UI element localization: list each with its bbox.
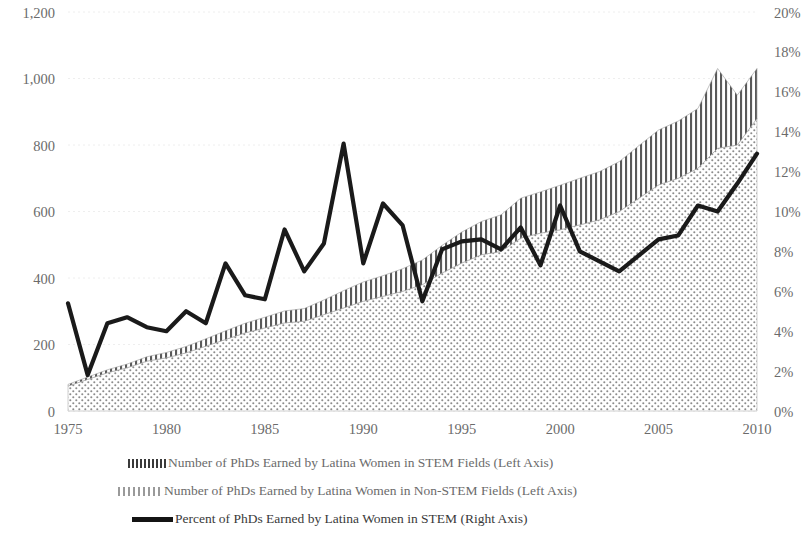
- y-axis-left-tick-label: 200: [33, 337, 55, 353]
- y-axis-left-tick-label: 400: [33, 271, 55, 287]
- y-axis-right-tick-label: 18%: [774, 44, 801, 60]
- dot-swatch-icon: [118, 487, 162, 496]
- x-axis-tick-label: 2000: [546, 421, 575, 437]
- y-axis-left-tick-label: 0: [48, 404, 55, 420]
- y-axis-right-tick-label: 0%: [774, 404, 793, 420]
- legend-item-percent: Percent of PhDs Earned by Latina Women i…: [132, 511, 528, 527]
- y-axis-left-tick-label: 1,200: [22, 5, 55, 21]
- x-axis-tick-label: 2010: [743, 421, 772, 437]
- legend-item-stem: Number of PhDs Earned by Latina Women in…: [128, 455, 553, 471]
- y-axis-left-ticks: 02004006008001,0001,200: [22, 5, 55, 420]
- legend-label-non-stem: Number of PhDs Earned by Latina Women in…: [164, 483, 577, 499]
- y-axis-right-tick-label: 8%: [774, 244, 793, 260]
- y-axis-right-tick-label: 12%: [774, 164, 801, 180]
- y-axis-right-tick-label: 10%: [774, 204, 801, 220]
- hatch-swatch-icon: [128, 459, 166, 468]
- chart-plot-area: 02004006008001,0001,200 0%2%4%6%8%10%12%…: [0, 0, 807, 448]
- y-axis-right-tick-label: 2%: [774, 364, 793, 380]
- legend-label-stem: Number of PhDs Earned by Latina Women in…: [168, 455, 553, 471]
- x-axis-tick-label: 1985: [250, 421, 279, 437]
- y-axis-right-tick-label: 20%: [774, 5, 801, 21]
- y-axis-right-tick-label: 16%: [774, 84, 801, 100]
- y-axis-right-tick-label: 4%: [774, 324, 793, 340]
- x-axis-tick-label: 1975: [54, 421, 83, 437]
- x-axis-ticks: 19751980198519901995200020052010: [54, 421, 772, 437]
- y-axis-right-tick-label: 14%: [774, 124, 801, 140]
- chart-container: 02004006008001,0001,200 0%2%4%6%8%10%12%…: [0, 0, 807, 545]
- x-axis-tick-label: 2005: [644, 421, 673, 437]
- y-axis-left-tick-label: 600: [33, 204, 55, 220]
- y-axis-left-tick-label: 1,000: [22, 71, 55, 87]
- x-axis-tick-label: 1990: [349, 421, 378, 437]
- x-axis-tick-label: 1980: [152, 421, 181, 437]
- y-axis-left-tick-label: 800: [33, 138, 55, 154]
- area-series-group: [68, 69, 757, 411]
- y-axis-right-tick-label: 6%: [774, 284, 793, 300]
- legend-label-percent: Percent of PhDs Earned by Latina Women i…: [175, 511, 528, 527]
- x-axis-tick-label: 1995: [447, 421, 476, 437]
- legend-item-non-stem: Number of PhDs Earned by Latina Women in…: [118, 483, 577, 499]
- line-swatch-icon: [132, 517, 173, 522]
- y-axis-right-ticks: 0%2%4%6%8%10%12%14%16%18%20%: [774, 5, 801, 420]
